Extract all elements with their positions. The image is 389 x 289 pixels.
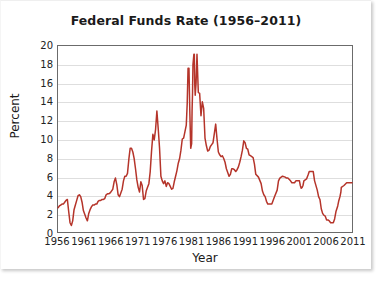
- x-tick-label: 1961: [71, 236, 96, 247]
- y-axis-tick-labels: 02468101214161820: [1, 45, 53, 233]
- series-line-chart: [58, 46, 352, 232]
- x-tick-label: 1981: [179, 236, 204, 247]
- x-tick-label: 1991: [233, 236, 258, 247]
- x-tick-label: 2011: [340, 236, 365, 247]
- y-tick-label: 12: [1, 115, 53, 126]
- x-tick-label: 1971: [125, 236, 150, 247]
- x-tick-label: 1986: [206, 236, 231, 247]
- y-tick-label: 18: [1, 58, 53, 69]
- y-tick-label: 14: [1, 96, 53, 107]
- x-tick-label: 1976: [152, 236, 177, 247]
- federal-funds-rate-line: [58, 54, 352, 225]
- y-tick-label: 8: [1, 152, 53, 163]
- x-tick-label: 2006: [313, 236, 338, 247]
- x-tick-label: 1996: [260, 236, 285, 247]
- chart-title: Federal Funds Rate (1956–2011): [1, 13, 371, 28]
- x-tick-label: 1966: [98, 236, 123, 247]
- x-axis-label: Year: [57, 251, 353, 265]
- plot-area: [57, 45, 353, 233]
- x-tick-label: 2001: [286, 236, 311, 247]
- y-tick-label: 20: [1, 40, 53, 51]
- y-tick-label: 16: [1, 77, 53, 88]
- chart-card: Federal Funds Rate (1956–2011) Percent 0…: [0, 0, 371, 269]
- y-tick-label: 6: [1, 171, 53, 182]
- y-tick-label: 2: [1, 209, 53, 220]
- x-axis-tick-labels: 1956196119661971197619811986199119962001…: [57, 236, 353, 252]
- y-tick-label: 10: [1, 134, 53, 145]
- y-tick-label: 4: [1, 190, 53, 201]
- x-tick-label: 1956: [44, 236, 69, 247]
